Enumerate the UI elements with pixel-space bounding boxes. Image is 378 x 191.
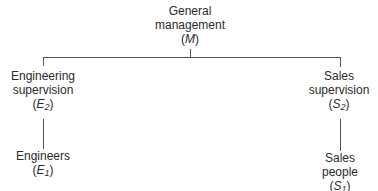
node-label-line1: General <box>140 4 240 18</box>
connector-e2-e1 <box>43 119 44 149</box>
node-label-line1: Sales <box>294 69 378 83</box>
connector-to-s2 <box>340 57 341 67</box>
node-label-line2: management <box>140 18 240 32</box>
node-sales-people: Sales people (S1) <box>305 151 375 191</box>
connector-horizontal-bar <box>43 57 341 58</box>
node-label-line2: supervision <box>294 83 378 97</box>
node-engineering-supervision: Engineering supervision (E2) <box>0 69 91 111</box>
node-label-line2: supervision <box>0 83 91 97</box>
node-symbol: (S1) <box>305 179 375 191</box>
connector-s2-s1 <box>340 119 341 151</box>
node-symbol: (S2) <box>294 97 378 111</box>
connector-m-stem <box>190 49 191 57</box>
node-sales-supervision: Sales supervision (S2) <box>294 69 378 111</box>
node-general-management: General management (M) <box>140 4 240 46</box>
node-label-line1: Engineering <box>0 69 91 83</box>
node-symbol: (M) <box>140 32 240 46</box>
node-engineers: Engineers (E1) <box>0 149 86 177</box>
node-symbol: (E2) <box>0 97 91 111</box>
node-label-line2: people <box>305 165 375 179</box>
connector-to-e2 <box>43 57 44 66</box>
node-label-line1: Sales <box>305 151 375 165</box>
node-symbol: (E1) <box>0 163 86 177</box>
node-label-line1: Engineers <box>0 149 86 163</box>
